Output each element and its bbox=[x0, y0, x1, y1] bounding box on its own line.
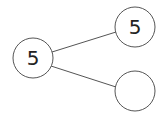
edge-root-to-bottom bbox=[51, 66, 116, 87]
tree-diagram: 5 5 bbox=[0, 0, 166, 115]
node-child-bottom bbox=[115, 71, 155, 111]
node-root-label: 5 bbox=[27, 46, 40, 70]
node-child-top: 5 bbox=[115, 7, 155, 47]
node-child-top-label: 5 bbox=[129, 15, 142, 39]
edge-root-to-top bbox=[52, 32, 116, 52]
node-root: 5 bbox=[13, 38, 53, 78]
